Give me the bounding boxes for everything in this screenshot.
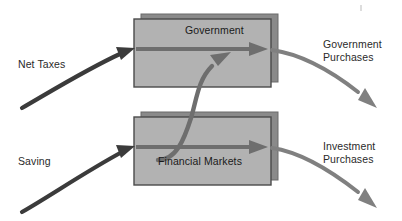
investment-purchases-label-line-1: Investment — [323, 140, 375, 153]
government-purchases-label-line-2: Purchases — [323, 51, 382, 64]
circular-flow-diagram: Government Financial Markets Net Taxes S… — [0, 0, 402, 221]
net-taxes-arrow — [22, 47, 135, 108]
investment-purchases-label: Investment Purchases — [323, 140, 375, 166]
government-box-label: Government — [185, 24, 244, 36]
government-purchases-label: Government Purchases — [323, 38, 382, 64]
saving-label: Saving — [18, 155, 51, 168]
saving-label-line-1: Saving — [18, 155, 51, 168]
financial-markets-box-label: Financial Markets — [158, 155, 242, 167]
net-taxes-label-line-1: Net Taxes — [18, 58, 65, 71]
government-purchases-label-line-1: Government — [323, 38, 382, 51]
scan-artifact-speck — [360, 5, 362, 11]
net-taxes-label: Net Taxes — [18, 58, 65, 71]
investment-purchases-label-line-2: Purchases — [323, 153, 375, 166]
